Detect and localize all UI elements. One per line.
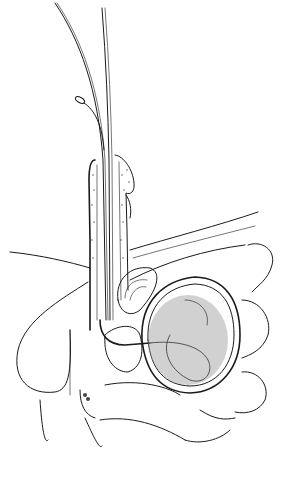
bladder xyxy=(142,277,240,393)
pubic-symphysis xyxy=(118,268,157,314)
penis-cross-section xyxy=(89,155,134,330)
guidewire-left xyxy=(55,3,108,320)
prostate xyxy=(105,326,142,372)
anatomical-figure xyxy=(0,0,300,480)
guidewire-right xyxy=(102,8,113,320)
catheter-with-tip xyxy=(74,95,104,150)
rectum xyxy=(40,383,180,447)
scrotum xyxy=(17,282,88,395)
